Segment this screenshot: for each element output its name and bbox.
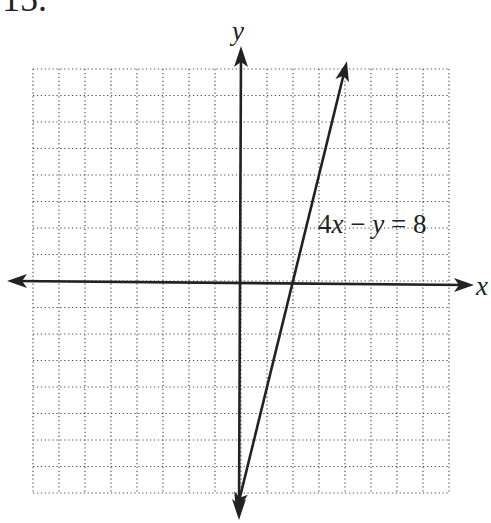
equation-var-y: y	[369, 209, 384, 239]
equation-minus: −	[343, 209, 372, 239]
y-axis-label: y	[229, 16, 244, 46]
equation-line-segment	[238, 69, 345, 505]
equation-var-x: x	[331, 209, 344, 239]
x-axis-label: x	[475, 271, 488, 301]
coordinate-plane: y x 4x − y = 8	[0, 0, 491, 523]
equation-rhs: = 8	[384, 209, 426, 239]
axes	[7, 46, 474, 520]
equation-line	[234, 61, 349, 512]
equation-coef: 4	[318, 209, 332, 239]
equation-label: 4x − y = 8	[318, 209, 426, 239]
